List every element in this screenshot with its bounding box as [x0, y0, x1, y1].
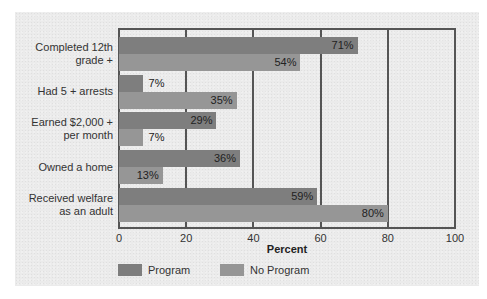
bar-value-label: 59% — [291, 188, 313, 205]
bar-value-label: 7% — [149, 129, 165, 146]
bar-program — [119, 37, 358, 54]
category-label: Received welfareas an adult — [0, 192, 113, 218]
x-axis-title: Percent — [267, 243, 307, 255]
bar-program — [119, 75, 143, 92]
category-label: Owned a home — [0, 161, 113, 174]
category-label: Had 5 + arrests — [0, 85, 113, 98]
legend-label-program: Program — [148, 264, 190, 276]
legend-swatch-no-program — [220, 264, 244, 276]
category-label-line: per month — [0, 129, 113, 142]
category-label-line: Earned $2,000 + — [0, 116, 113, 129]
category-label-line: Received welfare — [0, 192, 113, 205]
category-label: Completed 12thgrade + — [0, 41, 113, 67]
bar-value-label: 13% — [137, 167, 159, 184]
category-label-line: Owned a home — [0, 161, 113, 174]
bar-value-label: 54% — [274, 54, 296, 71]
gridline — [320, 28, 322, 229]
category-label: Earned $2,000 +per month — [0, 116, 113, 142]
legend-item-no-program: No Program — [220, 263, 309, 276]
legend-label-no-program: No Program — [250, 264, 309, 276]
category-label-line: Had 5 + arrests — [0, 85, 113, 98]
gridline — [387, 28, 389, 229]
bar-program — [119, 188, 317, 205]
x-tick-label: 100 — [446, 232, 464, 244]
x-tick-label: 0 — [116, 232, 122, 244]
x-tick-label: 60 — [314, 232, 326, 244]
bar-no-program — [119, 205, 388, 222]
category-label-line: grade + — [0, 54, 113, 67]
x-tick-label: 80 — [382, 232, 394, 244]
bar-value-label: 29% — [190, 112, 212, 129]
bar-value-label: 7% — [149, 75, 165, 92]
bar-no-program — [119, 129, 143, 146]
bar-no-program — [119, 54, 300, 71]
bar-value-label: 36% — [214, 150, 236, 167]
bar-value-label: 71% — [332, 37, 354, 54]
bar-value-label: 80% — [362, 205, 384, 222]
category-label-line: Completed 12th — [0, 41, 113, 54]
legend-item-program: Program — [118, 263, 190, 276]
category-label-line: as an adult — [0, 205, 113, 218]
x-tick-label: 20 — [180, 232, 192, 244]
legend-swatch-program — [118, 264, 142, 276]
x-tick-label: 40 — [247, 232, 259, 244]
bar-value-label: 35% — [211, 92, 233, 109]
